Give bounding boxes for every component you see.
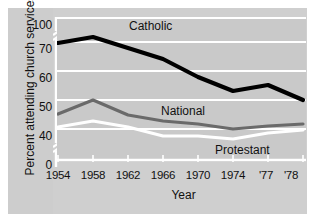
x-axis-title-text: Year <box>171 188 195 202</box>
data-series <box>57 17 306 162</box>
series-label-catholic: Catholic <box>129 19 172 33</box>
y-tick-label: 50 <box>0 100 52 114</box>
y-tick-label: 70 <box>0 42 52 56</box>
x-tick-label: '78 <box>284 169 298 181</box>
series-label-national: National <box>161 104 205 118</box>
x-tick-label: 1970 <box>186 169 210 181</box>
y-tick-label: 100 <box>0 18 52 32</box>
y-tick-label: 60 <box>0 71 52 85</box>
x-tick-label: 1974 <box>221 169 245 181</box>
plot-area: Catholic National Protestant <box>57 17 306 162</box>
x-tick-label: 1958 <box>81 169 105 181</box>
chart-figure: Percent attending church services 100 70… <box>0 0 315 222</box>
x-axis-ticks: 1954 1958 1962 1966 1970 1974 '77 '78 <box>0 169 315 187</box>
y-tick-label: 40 <box>0 129 52 143</box>
x-axis-title: Year <box>0 188 315 202</box>
x-tick-label: 1966 <box>151 169 175 181</box>
x-tick-label: 1954 <box>46 169 70 181</box>
series-line-catholic <box>58 37 303 100</box>
series-label-protestant: Protestant <box>215 143 270 157</box>
x-tick-label: '77 <box>259 169 273 181</box>
x-tick-label: 1962 <box>116 169 140 181</box>
